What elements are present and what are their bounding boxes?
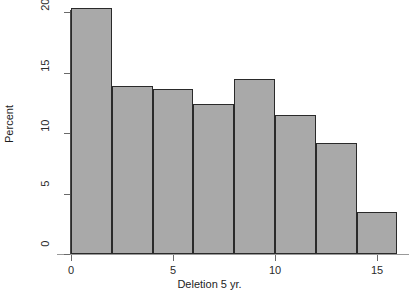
histogram-bar (153, 89, 194, 254)
x-axis-tick-label: 5 (158, 264, 188, 276)
y-axis-title: Percent (3, 89, 15, 159)
y-axis-tick (64, 12, 70, 13)
histogram-bar (234, 79, 275, 254)
x-axis-tick (173, 255, 174, 261)
x-axis-tick-label: 0 (56, 264, 86, 276)
y-axis-tick-label: 15 (40, 59, 51, 85)
histogram-figure: 05101520 051015 Deletion 5 yr. Percent (0, 0, 419, 299)
y-axis-tick (64, 73, 70, 74)
x-axis-tick (275, 255, 276, 261)
x-axis-line (57, 254, 409, 255)
bars-layer (0, 0, 419, 254)
histogram-bar (316, 143, 357, 254)
y-axis-tick-label: 20 (40, 0, 51, 25)
histogram-bar (71, 8, 112, 254)
y-axis-tick-label: 5 (40, 180, 51, 206)
y-axis-tick (64, 194, 70, 195)
y-axis-line (70, 10, 71, 255)
histogram-bar (275, 115, 316, 254)
y-axis-tick-label: 10 (40, 120, 51, 146)
histogram-bar (112, 86, 153, 254)
histogram-bar (193, 104, 234, 254)
histogram-bar (357, 212, 398, 254)
x-axis-tick (71, 255, 72, 261)
y-axis-tick (64, 254, 70, 255)
y-axis-tick-label: 0 (40, 241, 51, 267)
x-axis-tick (377, 255, 378, 261)
x-axis-tick-label: 15 (362, 264, 392, 276)
x-axis-title: Deletion 5 yr. (0, 278, 419, 290)
y-axis-tick (64, 133, 70, 134)
x-axis-tick-label: 10 (260, 264, 290, 276)
